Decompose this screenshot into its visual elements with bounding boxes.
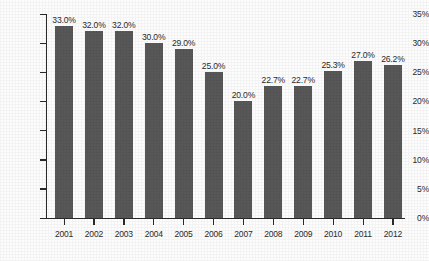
bar-value-label: 25.0% — [194, 61, 234, 71]
bar-chart: 0%5%10%15%20%25%30%35% 33.0%32.0%32.0%30… — [0, 0, 429, 261]
bar-value-label: 26.2% — [373, 54, 413, 64]
y-tick-mark — [40, 43, 46, 44]
y-tick-label: 30% — [391, 38, 429, 48]
bar — [354, 61, 372, 218]
x-tick-mark — [183, 219, 184, 225]
y-tick-mark — [40, 159, 46, 160]
bar — [115, 31, 133, 218]
bar — [324, 71, 342, 218]
bar — [264, 86, 282, 218]
bar — [205, 72, 223, 218]
x-tick-mark — [213, 219, 214, 225]
x-tick-mark — [392, 219, 393, 225]
x-axis-line — [46, 218, 405, 219]
bar-value-label: 29.0% — [164, 38, 204, 48]
bar-value-label: 25.3% — [313, 60, 353, 70]
y-tick-label: 35% — [391, 9, 429, 19]
bar — [145, 43, 163, 218]
x-tick-mark — [303, 219, 304, 225]
bar — [175, 49, 193, 218]
x-tick-mark — [243, 219, 244, 225]
y-tick-mark — [40, 218, 46, 219]
bar — [234, 101, 252, 218]
x-tick-mark — [333, 219, 334, 225]
y-tick-mark — [40, 101, 46, 102]
x-tick-mark — [64, 219, 65, 225]
x-tick-mark — [363, 219, 364, 225]
y-axis-line — [46, 14, 47, 219]
y-tick-mark — [40, 72, 46, 73]
bar — [85, 31, 103, 218]
y-tick-mark — [40, 188, 46, 189]
y-tick-mark — [40, 130, 46, 131]
bar — [384, 65, 402, 218]
bar — [55, 26, 73, 218]
bar — [294, 86, 312, 218]
x-tick-mark — [123, 219, 124, 225]
x-tick-mark — [153, 219, 154, 225]
bar-value-label: 20.0% — [223, 90, 263, 100]
bar-value-label: 22.7% — [283, 75, 323, 85]
x-tick-label: 2012 — [373, 229, 413, 239]
bar-value-label: 32.0% — [104, 20, 144, 30]
x-tick-mark — [93, 219, 94, 225]
x-tick-mark — [273, 219, 274, 225]
